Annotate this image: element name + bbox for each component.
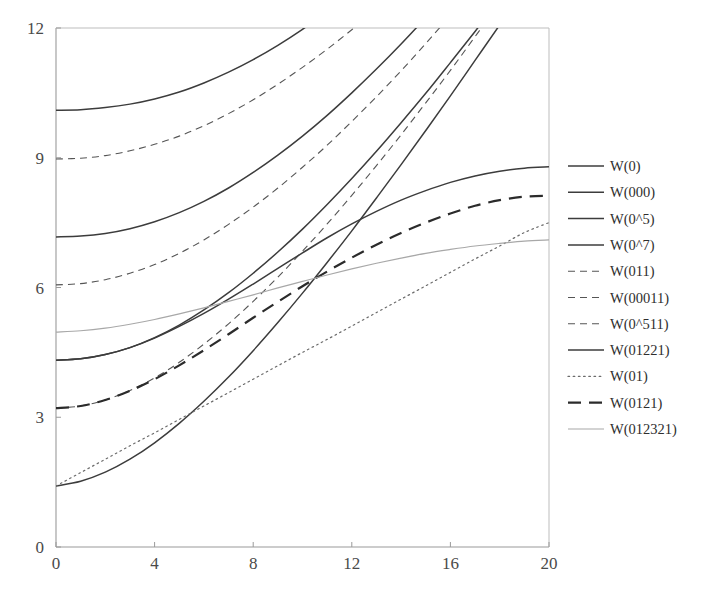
legend-label: W(011) xyxy=(610,263,655,280)
legend-label: W(0^7) xyxy=(610,237,655,254)
x-tick-label: 12 xyxy=(343,554,360,573)
x-tick-label: 4 xyxy=(150,554,159,573)
legend-label: W(01) xyxy=(610,368,648,385)
legend-label: W(01221) xyxy=(610,342,670,359)
legend-label: W(012321) xyxy=(610,421,677,438)
y-tick-label: 0 xyxy=(36,538,45,557)
legend-label: W(00011) xyxy=(610,290,669,307)
y-tick-label: 9 xyxy=(36,149,45,168)
x-tick-label: 0 xyxy=(52,554,61,573)
legend-label: W(0) xyxy=(610,158,641,175)
legend-label: W(0121) xyxy=(610,395,663,412)
x-tick-label: 20 xyxy=(541,554,558,573)
legend-label: W(0^511) xyxy=(610,316,669,333)
x-tick-label: 16 xyxy=(442,554,459,573)
y-tick-label: 3 xyxy=(36,408,45,427)
x-tick-label: 8 xyxy=(249,554,258,573)
y-tick-label: 6 xyxy=(36,279,45,298)
line-chart-figure: 048121620 036912 W(0)W(000)W(0^5)W(0^7)W… xyxy=(0,0,717,608)
y-tick-label: 12 xyxy=(27,19,44,38)
legend-label: W(0^5) xyxy=(610,211,655,228)
legend-label: W(000) xyxy=(610,184,655,201)
